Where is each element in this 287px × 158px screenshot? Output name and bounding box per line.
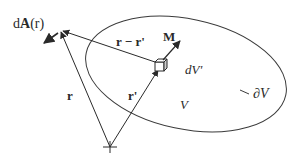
label-r-minus-rprime: r − r': [116, 35, 145, 48]
label-dA-vector: A: [20, 16, 30, 31]
vector-dA-arrow: [44, 33, 58, 43]
label-dA-arg: (r): [30, 16, 44, 31]
label-dA: dA(r): [13, 17, 44, 31]
label-dV: dV': [185, 63, 202, 76]
label-V: V: [180, 98, 188, 111]
label-M: M: [163, 30, 175, 43]
label-dA-prefix: d: [13, 16, 20, 31]
vector-rprime-arrow: [110, 70, 158, 147]
label-boundary: ∂V: [253, 87, 268, 101]
label-r: r: [67, 89, 73, 102]
label-rprime: r': [128, 89, 137, 102]
boundary-leader-line: [240, 90, 249, 94]
volume-element-cube-icon: [155, 59, 167, 71]
origin-cross-icon: [103, 141, 117, 153]
region-v-ellipse: [75, 0, 287, 149]
